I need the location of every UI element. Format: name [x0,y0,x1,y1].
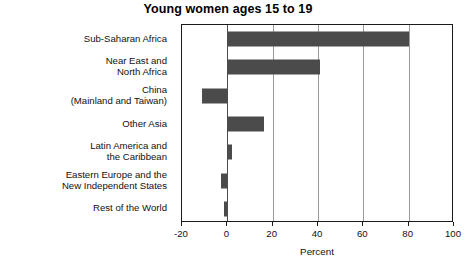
y-axis-tick-label: Latin America andthe Caribbean [0,140,172,162]
x-axis-tick-mark [408,222,409,226]
bar [227,60,320,75]
bar [224,201,227,216]
x-axis-tick-label: -20 [161,228,201,239]
bar-row [182,82,452,110]
y-axis-tick-label: Other Asia [0,118,172,129]
bar [221,173,228,188]
y-axis-tick-label-line: (Mainland and Taiwan) [0,95,167,106]
x-axis-tick-mark [362,222,363,226]
y-axis-tick-label: China(Mainland and Taiwan) [0,84,172,106]
y-axis-tick-label: Rest of the World [0,202,172,213]
bar-row [182,195,452,223]
y-axis-tick-label-line: Latin America and [0,140,167,151]
y-axis-tick-label-line: Near East and [0,55,167,66]
x-axis-tick-mark [453,222,454,226]
x-axis-tick-label: 60 [342,228,382,239]
y-axis-tick-label-line: North Africa [0,66,167,77]
bar-row [182,110,452,138]
y-axis-tick-label-line: Sub-Saharan Africa [0,33,167,44]
bar-row [182,166,452,194]
y-axis-tick-label-line: China [0,84,167,95]
bar-row [182,138,452,166]
bar-row [182,53,452,81]
y-axis-tick-label-line: Other Asia [0,118,167,129]
y-axis-tick-label: Eastern Europe and theNew Independent St… [0,169,172,191]
y-axis-tick-label-line: Rest of the World [0,202,167,213]
y-axis-tick-label-line: the Caribbean [0,151,167,162]
plot-area [181,24,453,222]
x-axis-tick-mark [226,222,227,226]
y-axis-tick-label-line: New Independent States [0,180,167,191]
bar [227,32,408,47]
x-axis-tick-label: 0 [206,228,246,239]
chart-title: Young women ages 15 to 19 [0,2,456,16]
bar [227,116,263,131]
bar [202,88,227,103]
x-axis-title: Percent [181,246,453,257]
bar [227,145,232,160]
x-axis-tick-label: 100 [433,228,466,239]
x-axis-tick-label: 80 [388,228,428,239]
y-axis-tick-label: Sub-Saharan Africa [0,33,172,44]
x-axis-tick-mark [272,222,273,226]
x-axis-tick-mark [181,222,182,226]
x-axis-tick-mark [317,222,318,226]
y-axis-tick-label-line: Eastern Europe and the [0,169,167,180]
bar-row [182,25,452,53]
x-axis-tick-label: 20 [252,228,292,239]
x-axis-tick-label: 40 [297,228,337,239]
y-axis-tick-label: Near East andNorth Africa [0,55,172,77]
